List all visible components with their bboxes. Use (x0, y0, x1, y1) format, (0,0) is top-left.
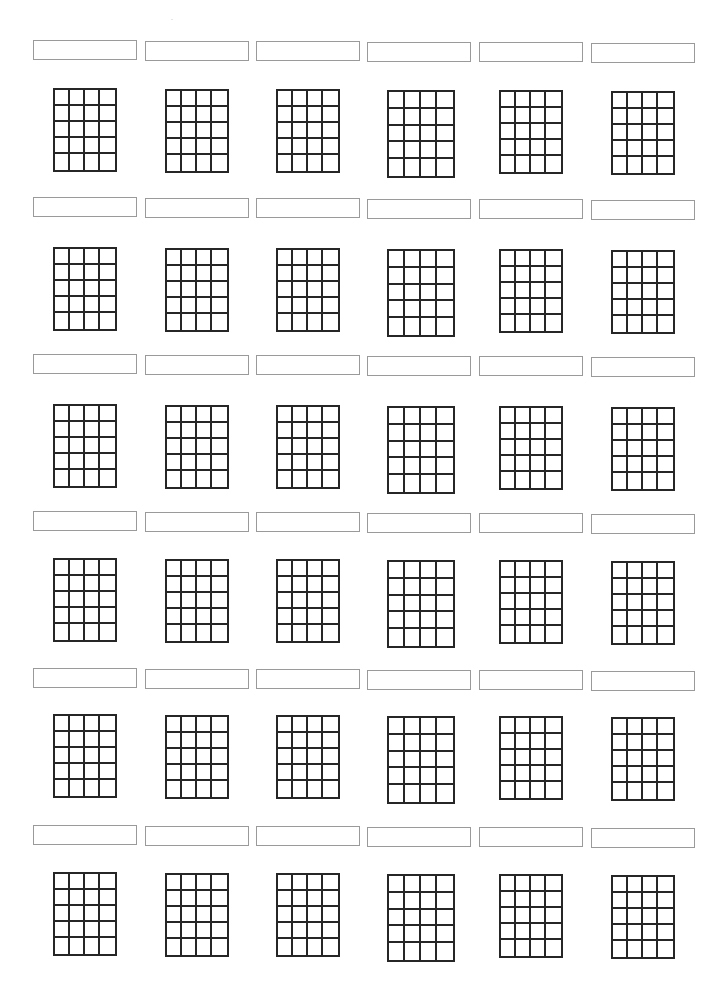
chord-name-box[interactable] (591, 43, 695, 63)
fret-cell (278, 423, 293, 439)
fret-cell (212, 625, 227, 641)
chord-name-box[interactable] (145, 669, 249, 689)
fret-cell (643, 563, 658, 579)
fret-cell (643, 751, 658, 767)
fret-cell (628, 457, 643, 473)
fret-cell (437, 268, 453, 285)
chord-name-box[interactable] (479, 356, 583, 376)
fret-cell (85, 906, 100, 922)
fret-cell (278, 407, 293, 423)
fret-cell (323, 423, 338, 439)
chord-name-box[interactable] (33, 197, 137, 217)
fret-cell (437, 768, 453, 785)
fret-cell (531, 92, 546, 108)
fret-cell (628, 300, 643, 316)
chord-name-box[interactable] (256, 41, 360, 61)
chord-diagram (256, 355, 366, 495)
chord-name-box[interactable] (367, 42, 471, 62)
fret-cell (531, 108, 546, 124)
fret-cell (197, 939, 212, 955)
fret-cell (421, 92, 437, 109)
fret-cell (389, 562, 405, 579)
chord-name-box[interactable] (145, 826, 249, 846)
fret-cell (182, 423, 197, 439)
fret-cell (70, 122, 85, 138)
fret-cell (613, 252, 628, 268)
fret-cell (100, 592, 115, 608)
chord-name-box[interactable] (479, 670, 583, 690)
chord-name-box[interactable] (367, 199, 471, 219)
chord-name-box[interactable] (256, 826, 360, 846)
chord-name-box[interactable] (256, 669, 360, 689)
fret-cell (182, 91, 197, 107)
fret-cell (293, 923, 308, 939)
fret-cell (197, 923, 212, 939)
fret-cell (197, 593, 212, 609)
chord-name-box[interactable] (145, 41, 249, 61)
chord-name-box[interactable] (145, 198, 249, 218)
chord-name-box[interactable] (33, 354, 137, 374)
chord-name-box[interactable] (256, 512, 360, 532)
chord-name-box[interactable] (367, 356, 471, 376)
fret-cell (501, 124, 516, 140)
fret-cell (531, 876, 546, 892)
fret-cell (516, 283, 531, 299)
chord-name-box[interactable] (479, 42, 583, 62)
chord-diagram (367, 199, 477, 339)
chord-name-box[interactable] (33, 40, 137, 60)
fret-cell (613, 719, 628, 735)
chord-name-box[interactable] (367, 827, 471, 847)
fret-cell (70, 922, 85, 938)
chord-name-box[interactable] (256, 355, 360, 375)
fret-cell (293, 577, 308, 593)
chord-name-box[interactable] (33, 668, 137, 688)
chord-name-box[interactable] (33, 511, 137, 531)
chord-name-box[interactable] (145, 355, 249, 375)
fret-cell (70, 780, 85, 796)
fret-cell (70, 764, 85, 780)
chord-name-box[interactable] (145, 512, 249, 532)
fret-cell (643, 141, 658, 157)
fret-cell (643, 877, 658, 893)
fret-cell (308, 923, 323, 939)
fret-cell (405, 458, 421, 475)
fret-cell (628, 109, 643, 125)
fret-cell (55, 454, 70, 470)
chord-name-box[interactable] (33, 825, 137, 845)
fret-cell (100, 874, 115, 890)
fret-cell (55, 422, 70, 438)
chord-name-box[interactable] (479, 199, 583, 219)
chord-name-box[interactable] (256, 198, 360, 218)
fret-cell (516, 892, 531, 908)
fret-cell (308, 717, 323, 733)
fret-cell (212, 577, 227, 593)
chord-name-box[interactable] (591, 514, 695, 534)
fret-cell (643, 316, 658, 332)
fret-cell (421, 251, 437, 268)
fret-cell (658, 252, 673, 268)
fret-cell (501, 908, 516, 924)
chord-name-box[interactable] (479, 827, 583, 847)
fret-cell (212, 423, 227, 439)
chord-name-box[interactable] (479, 513, 583, 533)
fret-cell (531, 610, 546, 626)
fret-cell (212, 717, 227, 733)
chord-name-box[interactable] (591, 828, 695, 848)
fret-cell (389, 629, 405, 646)
chord-name-box[interactable] (591, 200, 695, 220)
fretboard-grid (165, 89, 229, 173)
fretboard-grid (165, 873, 229, 957)
fret-cell (421, 752, 437, 769)
fret-cell (643, 611, 658, 627)
fret-cell (546, 456, 561, 472)
chord-name-box[interactable] (591, 671, 695, 691)
chord-diagram (591, 828, 701, 968)
fret-cell (405, 943, 421, 960)
fret-cell (405, 718, 421, 735)
chord-name-box[interactable] (591, 357, 695, 377)
chord-name-box[interactable] (367, 513, 471, 533)
fret-cell (308, 625, 323, 641)
chord-name-box[interactable] (367, 670, 471, 690)
chord-diagram (145, 826, 255, 966)
fret-cell (323, 455, 338, 471)
